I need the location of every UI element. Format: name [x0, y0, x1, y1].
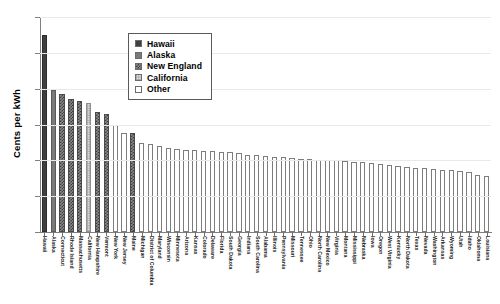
bar[interactable] [236, 153, 241, 232]
bar[interactable] [263, 156, 268, 232]
x-label-slot: Oregon [376, 236, 385, 304]
x-tick-mark [71, 232, 72, 236]
legend-item-hawaii[interactable]: Hawaii [135, 38, 202, 49]
bar[interactable] [387, 165, 392, 232]
bar[interactable] [130, 133, 135, 232]
x-tick-label: Oregon [378, 236, 384, 254]
bar[interactable] [422, 168, 427, 232]
bar[interactable] [457, 171, 462, 232]
x-tick-label: Florida [218, 236, 224, 253]
bar[interactable] [42, 35, 47, 232]
bar[interactable] [210, 151, 215, 232]
x-label-slot: Iowa [367, 236, 376, 304]
x-label-slot: Massachusetts [75, 236, 84, 304]
x-tick-label: South Carolina [254, 236, 260, 273]
bar[interactable] [148, 144, 153, 232]
bar[interactable] [360, 162, 365, 232]
bar[interactable] [413, 168, 418, 233]
bar[interactable] [192, 150, 197, 232]
bar[interactable] [378, 164, 383, 232]
x-tick-label: Michigan [139, 236, 145, 258]
bar[interactable] [113, 125, 118, 233]
legend-item-california[interactable]: California [135, 72, 202, 83]
bar[interactable] [440, 170, 445, 232]
legend-swatch-icon [135, 74, 142, 81]
bar[interactable] [369, 163, 374, 232]
bar[interactable] [104, 114, 109, 232]
x-label-slot: New Hampshire [93, 236, 102, 304]
bar[interactable] [484, 176, 489, 232]
bar[interactable] [449, 170, 454, 232]
bar[interactable] [183, 150, 188, 232]
x-tick-label: Minnesota [174, 236, 180, 262]
x-label-slot: Alaska [49, 236, 58, 304]
x-tick-mark [469, 232, 470, 236]
bar[interactable] [254, 155, 259, 232]
bar[interactable] [281, 157, 286, 232]
x-tick-mark [487, 232, 488, 236]
legend-swatch-icon [135, 52, 142, 59]
bar[interactable] [395, 166, 400, 232]
x-label-slot: Arizona [181, 236, 190, 304]
bar[interactable] [174, 149, 179, 232]
bar[interactable] [139, 143, 144, 232]
bar[interactable] [95, 112, 100, 232]
x-label-slot: Alabama [261, 236, 270, 304]
x-tick-label: Oklahoma [475, 236, 481, 261]
legend-item-alaska[interactable]: Alaska [135, 49, 202, 60]
bar[interactable] [431, 169, 436, 232]
x-label-slot: Michigan [137, 236, 146, 304]
x-label-slot: Kansas [190, 236, 199, 304]
bar[interactable] [475, 175, 480, 232]
x-tick-mark [372, 232, 373, 236]
x-tick-mark [186, 232, 187, 236]
bar[interactable] [77, 101, 82, 232]
bar[interactable] [289, 158, 294, 232]
legend-label: Alaska [147, 50, 175, 60]
x-label-slot: Louisiana [482, 236, 491, 304]
bar[interactable] [157, 146, 162, 232]
x-tick-label: Indiana [245, 236, 251, 254]
bar[interactable] [86, 103, 91, 232]
bar[interactable] [466, 172, 471, 232]
bar[interactable] [272, 157, 277, 232]
x-tick-label: Montana [342, 236, 348, 257]
bar[interactable] [227, 152, 232, 232]
x-label-slot: Florida [217, 236, 226, 304]
gridline-20 [40, 89, 491, 90]
legend-swatch-icon [135, 86, 142, 93]
bar[interactable] [404, 167, 409, 232]
legend-label: Hawaii [147, 39, 175, 49]
x-axis-labels: HawaiiAlaskaConnecticutRhode IslandMassa… [40, 236, 492, 304]
gridline-25 [40, 53, 491, 54]
x-tick-label: Arkansas [440, 236, 446, 259]
bar[interactable] [245, 155, 250, 232]
gridline-10 [40, 160, 491, 161]
x-label-slot: Nevada [420, 236, 429, 304]
x-tick-label: Nebraska [360, 236, 366, 259]
x-label-slot: South Dakota [226, 236, 235, 304]
legend-label: Other [147, 84, 170, 94]
x-label-slot: District of Columbia [146, 236, 155, 304]
bar[interactable] [59, 94, 64, 232]
x-label-slot: Colorado [199, 236, 208, 304]
bar[interactable] [201, 151, 206, 232]
x-tick-label: Connecticut [59, 236, 65, 266]
x-tick-mark [345, 232, 346, 236]
legend-item-other[interactable]: Other [135, 84, 202, 95]
x-tick-label: Kentucky [395, 236, 401, 259]
x-label-slot: Virginia [332, 236, 341, 304]
x-label-slot: Idaho [464, 236, 473, 304]
bar[interactable] [219, 152, 224, 232]
legend-swatch-icon [135, 40, 142, 47]
x-label-slot: Tennessee [296, 236, 305, 304]
x-label-slot: South Carolina [252, 236, 261, 304]
gridline-15 [40, 125, 491, 126]
x-label-slot: North Carolina [314, 236, 323, 304]
legend-label: California [147, 73, 188, 83]
bar[interactable] [68, 99, 73, 232]
x-tick-label: New Mexico [325, 236, 331, 266]
x-tick-mark [336, 232, 337, 236]
legend-item-new-england[interactable]: New England [135, 61, 202, 72]
bar[interactable] [121, 133, 126, 232]
